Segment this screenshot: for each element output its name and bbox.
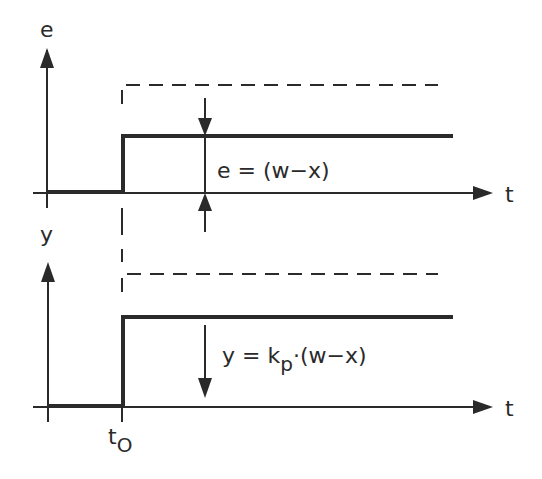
top-x-axis-arrow-icon (473, 186, 493, 200)
t0-label: tO (108, 424, 132, 457)
top-plot: e t e = (w−x) (33, 17, 514, 232)
bottom-plot: y t y = kp·(w−x) tO (33, 222, 514, 457)
bottom-x-axis-arrow-icon (473, 400, 493, 414)
bottom-setpoint-dashed (122, 274, 438, 292)
bottom-y-axis-label: y (40, 222, 53, 247)
error-equation: e = (w−x) (217, 158, 330, 183)
bottom-arrow-down-icon (198, 378, 212, 398)
bottom-y-axis-arrow-icon (41, 262, 55, 282)
output-equation: y = kp·(w−x) (222, 343, 367, 376)
step-response-diagram: e t e = (w−x) y t (0, 0, 542, 479)
top-arrow-down-icon (198, 118, 212, 136)
top-y-axis-arrow-icon (40, 48, 54, 68)
top-x-axis-label: t (505, 182, 514, 207)
top-setpoint-dashed (122, 85, 438, 104)
top-y-axis-label: e (40, 17, 54, 42)
t0-subscript: O (117, 433, 133, 457)
bottom-x-axis-label: t (505, 396, 514, 421)
kp-subscript: p (280, 352, 293, 376)
